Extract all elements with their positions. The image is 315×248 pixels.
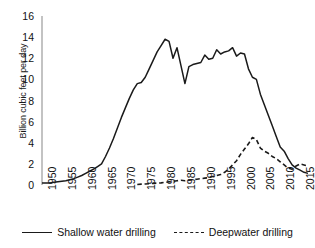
series-line-shallow-water-drilling [42,39,308,183]
legend-item-shallow-water-drilling: Shallow water drilling [22,226,156,238]
legend-label-shallow-water-drilling: Shallow water drilling [57,226,156,238]
chart-container: Billion cubic feet per day 0246810121416… [0,0,315,248]
plot-area [0,0,315,248]
legend-swatch-dashed-icon [174,232,204,233]
chart-legend: Shallow water drilling Deepwater drillin… [0,226,315,238]
legend-swatch-solid-icon [22,232,52,233]
legend-label-deepwater-drilling: Deepwater drilling [209,226,293,238]
legend-item-deepwater-drilling: Deepwater drilling [174,226,293,238]
series-line-deepwater-drilling [137,137,308,184]
